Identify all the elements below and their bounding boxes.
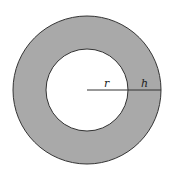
label-r: r	[104, 77, 110, 90]
label-h: h	[141, 77, 148, 90]
annulus-diagram: r h	[0, 0, 171, 169]
